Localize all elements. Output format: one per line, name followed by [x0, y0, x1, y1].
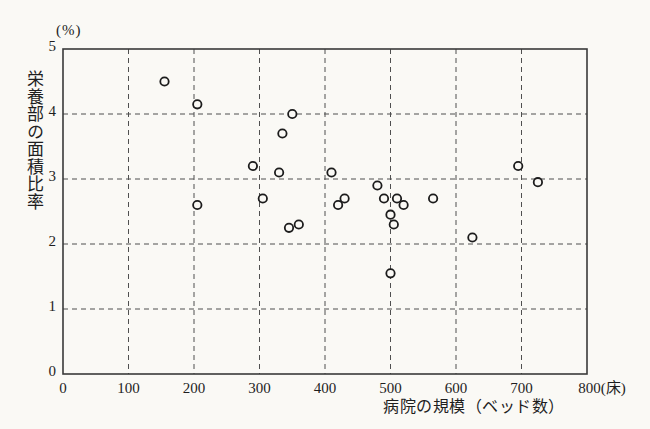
data-point	[278, 129, 286, 137]
x-tick-label: 200	[183, 380, 206, 396]
data-point	[514, 162, 522, 170]
y-tick-label: 2	[49, 233, 57, 249]
x-tick-label: 800(床)	[578, 380, 626, 397]
data-point	[534, 178, 542, 186]
y-tick-label: 1	[49, 298, 57, 314]
x-tick-label: 300	[248, 380, 271, 396]
x-tick-label: 400	[314, 380, 337, 396]
data-point	[285, 224, 293, 232]
data-point	[288, 110, 296, 118]
data-point	[380, 194, 388, 202]
data-point	[295, 220, 303, 228]
y-tick-label: 3	[49, 168, 57, 184]
data-point	[429, 194, 437, 202]
x-axis-title: 病院の規模（ベッド数）	[383, 393, 565, 417]
y-axis-unit-label: (%)	[56, 22, 82, 39]
data-point	[340, 194, 348, 202]
data-point	[393, 194, 401, 202]
x-tick-label: 0	[59, 380, 67, 396]
grid-layer	[63, 49, 587, 374]
scatter-plot-page: 0100200300400500600700800(床) 012345 (%) …	[0, 0, 650, 429]
data-point	[390, 220, 398, 228]
data-point	[373, 181, 381, 189]
data-point	[327, 168, 335, 176]
data-point	[259, 194, 267, 202]
data-points	[160, 77, 542, 277]
data-point	[193, 100, 201, 108]
data-point	[249, 162, 257, 170]
x-tick-label: 100	[117, 380, 140, 396]
y-tick-labels: 012345	[49, 38, 57, 379]
data-point	[160, 77, 168, 85]
scatter-chart: 0100200300400500600700800(床) 012345	[0, 0, 650, 429]
y-axis-title: 栄養部の面積比率	[25, 70, 42, 210]
data-point	[468, 233, 476, 241]
y-tick-label: 4	[49, 103, 57, 119]
y-tick-label: 5	[49, 38, 57, 54]
data-point	[386, 269, 394, 277]
data-point	[275, 168, 283, 176]
data-point	[386, 211, 394, 219]
y-tick-label: 0	[49, 363, 57, 379]
data-point	[193, 201, 201, 209]
data-point	[399, 201, 407, 209]
